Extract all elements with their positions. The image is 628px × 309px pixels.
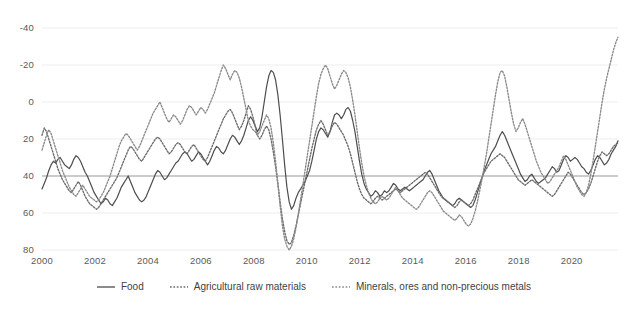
- y-tick-label: -20: [4, 59, 34, 70]
- legend-item-2[interactable]: Minerals, ores and non-precious metals: [332, 281, 531, 292]
- series-line-2: [42, 37, 618, 250]
- x-tick-label: 2004: [128, 255, 168, 266]
- legend-item-1[interactable]: Agricultural raw materials: [170, 281, 306, 292]
- x-tick-label: 2000: [22, 255, 62, 266]
- x-tick-label: 2016: [446, 255, 486, 266]
- chart-legend: FoodAgricultural raw materialsMinerals, …: [0, 281, 628, 292]
- x-tick-label: 2002: [75, 255, 115, 266]
- x-tick-label: 2008: [234, 255, 274, 266]
- x-tick-label: 2006: [181, 255, 221, 266]
- y-tick-label: -40: [4, 22, 34, 33]
- legend-label: Agricultural raw materials: [194, 281, 306, 292]
- y-tick-label: 40: [4, 170, 34, 181]
- legend-label: Food: [121, 281, 144, 292]
- x-tick-label: 2012: [340, 255, 380, 266]
- x-tick-label: 2020: [552, 255, 592, 266]
- x-tick-label: 2010: [287, 255, 327, 266]
- commodity-price-change-chart: 806040200-20-40 200020022004200620082010…: [0, 0, 628, 309]
- y-tick-label: 0: [4, 96, 34, 107]
- y-tick-label: 20: [4, 133, 34, 144]
- gridlines: [42, 28, 618, 250]
- y-tick-label: 80: [4, 244, 34, 255]
- dotted-line-icon: [332, 283, 350, 291]
- y-tick-label: 60: [4, 207, 34, 218]
- solid-line-icon: [97, 283, 115, 291]
- x-tick-label: 2014: [393, 255, 433, 266]
- x-tick-label: 2018: [499, 255, 539, 266]
- series-lines: [42, 37, 618, 250]
- series-line-0: [42, 71, 618, 210]
- dotted-line-icon: [170, 283, 188, 291]
- legend-item-0[interactable]: Food: [97, 281, 144, 292]
- legend-label: Minerals, ores and non-precious metals: [356, 281, 531, 292]
